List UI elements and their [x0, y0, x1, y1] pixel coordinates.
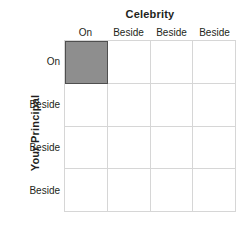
row-header-cell-2: Beside [0, 83, 60, 126]
matrix-cell-r3-c1[interactable] [65, 127, 108, 170]
matrix-cell-r1-c1[interactable] [65, 41, 108, 84]
matrix-cell-r4-c2[interactable] [108, 169, 151, 212]
row-header-cell-3: Beside [0, 126, 60, 169]
matrix-cell-r3-c4[interactable] [193, 127, 236, 170]
matrix-cell-r3-c3[interactable] [151, 127, 194, 170]
matrix-cell-r1-c4[interactable] [193, 41, 236, 84]
row-header-cell-1: On [0, 40, 60, 83]
matrix-cell-r4-c1[interactable] [65, 169, 108, 212]
matrix-cell-r2-c2[interactable] [108, 84, 151, 127]
matrix-cell-r2-c4[interactable] [193, 84, 236, 127]
matrix-cell-r4-c3[interactable] [151, 169, 194, 212]
matrix-grid [64, 40, 236, 212]
column-header-cell-2: Beside [107, 26, 150, 40]
column-header-cell-1: On [64, 26, 107, 40]
column-header-cell-4: Beside [193, 26, 236, 40]
column-axis-title: Celebrity [64, 8, 236, 21]
matrix-cell-r1-c2[interactable] [108, 41, 151, 84]
column-header-row: On Beside Beside Beside [64, 26, 236, 40]
column-header-cell-3: Beside [150, 26, 193, 40]
row-header-cell-4: Beside [0, 169, 60, 212]
matrix-cell-r2-c1[interactable] [65, 84, 108, 127]
matrix-cell-r2-c3[interactable] [151, 84, 194, 127]
row-header-column: On Beside Beside Beside [0, 40, 60, 212]
matrix-cell-r3-c2[interactable] [108, 127, 151, 170]
matrix-cell-r1-c3[interactable] [151, 41, 194, 84]
matrix-cell-r4-c4[interactable] [193, 169, 236, 212]
